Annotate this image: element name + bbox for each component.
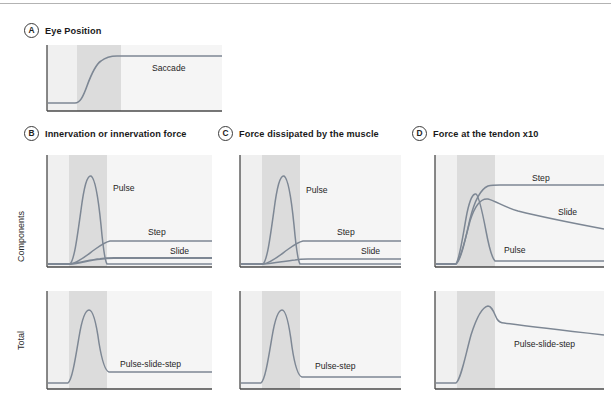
panel-heading-d: D Force at the tendon x10 — [412, 126, 538, 141]
chart-b-components-svg: Pulse Step Slide — [44, 155, 212, 273]
curve-label-b-step: Step — [148, 227, 166, 237]
shade-pre-d-total — [435, 291, 457, 389]
curve-label-d-step: Step — [532, 173, 550, 183]
shade-pre-d-comp — [435, 155, 457, 267]
chart-a-svg: Saccade — [44, 45, 222, 117]
curve-label-b-slide: Slide — [170, 246, 189, 256]
panel-title-a: Eye Position — [45, 26, 101, 36]
shade-post-b-comp — [107, 155, 212, 267]
panel-badge-d: D — [412, 126, 427, 141]
curve-label-b-pulse: Pulse — [113, 183, 135, 193]
chart-d-total-svg: Pulse-slide-step — [432, 291, 604, 395]
chart-d-components-svg: Step Slide Pulse — [432, 155, 604, 273]
top-divider — [0, 3, 611, 4]
plot-d-total: Pulse-slide-step — [432, 291, 604, 395]
curve-label-c-pulse: Pulse — [306, 185, 328, 195]
curve-label-d-pulse: Pulse — [504, 245, 526, 255]
shade-pre-c-comp — [240, 155, 262, 267]
chart-b-total-svg: Pulse-slide-step — [44, 291, 212, 395]
row-label-total: Total — [16, 331, 26, 350]
shade-pre-b-comp — [47, 155, 69, 267]
panel-title-c: Force dissipated by the muscle — [239, 129, 379, 139]
panel-heading-c: C Force dissipated by the muscle — [218, 126, 379, 141]
shade-post-b-total — [107, 291, 212, 389]
plot-d-components: Step Slide Pulse — [432, 155, 604, 273]
curve-label-d-total: Pulse-slide-step — [514, 339, 575, 349]
panel-title-d: Force at the tendon x10 — [433, 129, 538, 139]
plot-a-eye-position: Saccade — [44, 45, 222, 117]
panel-badge-b: B — [24, 126, 39, 141]
panel-heading-a: A Eye Position — [24, 23, 101, 38]
shade-saccade-a — [77, 45, 121, 111]
curve-label-d-slide: Slide — [558, 207, 577, 217]
shade-post-c-comp — [300, 155, 401, 267]
chart-c-components-svg: Pulse Step Slide — [237, 155, 401, 273]
shade-post-a — [121, 45, 222, 111]
curve-label-a-saccade: Saccade — [152, 63, 186, 73]
curve-label-c-step: Step — [337, 227, 355, 237]
panel-title-b: Innervation or innervation force — [45, 129, 187, 139]
plot-c-total: Pulse-step — [237, 291, 401, 395]
panel-badge-c: C — [218, 126, 233, 141]
plot-b-total: Pulse-slide-step — [44, 291, 212, 395]
row-label-components: Components — [16, 211, 26, 262]
shade-saccade-b-total — [69, 291, 107, 389]
curve-label-c-slide: Slide — [361, 246, 380, 256]
shade-post-c-total — [300, 291, 401, 389]
curve-label-b-total: Pulse-slide-step — [120, 359, 181, 369]
figure-root: A Eye Position Saccade Components Total … — [0, 0, 611, 404]
shade-pre-c-total — [240, 291, 262, 389]
shade-pre-a — [47, 45, 77, 111]
panel-heading-b: B Innervation or innervation force — [24, 126, 187, 141]
chart-c-total-svg: Pulse-step — [237, 291, 401, 395]
shade-pre-b-total — [47, 291, 69, 389]
curve-label-c-total: Pulse-step — [315, 361, 356, 371]
plot-c-components: Pulse Step Slide — [237, 155, 401, 273]
shade-saccade-c-total — [262, 291, 300, 389]
plot-b-components: Pulse Step Slide — [44, 155, 212, 273]
panel-badge-a: A — [24, 23, 39, 38]
